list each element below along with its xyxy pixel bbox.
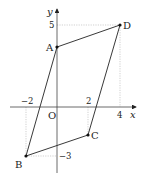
parallelogram-abcd bbox=[26, 25, 120, 156]
coordinate-diagram: A B C D x y O −2 2 4 5 −3 bbox=[0, 0, 142, 183]
label-b: B bbox=[15, 159, 22, 170]
y-axis-label: y bbox=[46, 6, 53, 17]
point-b bbox=[24, 154, 27, 157]
guide-lines bbox=[26, 25, 120, 156]
label-d: D bbox=[123, 20, 131, 31]
x-tick-4: 4 bbox=[117, 110, 122, 120]
point-d bbox=[118, 23, 121, 26]
label-a: A bbox=[45, 42, 54, 53]
point-c bbox=[86, 133, 89, 136]
x-tick-neg2: −2 bbox=[21, 96, 34, 106]
x-tick-2: 2 bbox=[86, 96, 91, 106]
y-tick-neg3: −3 bbox=[59, 151, 72, 161]
x-axis-label: x bbox=[130, 109, 136, 120]
y-tick-5: 5 bbox=[49, 20, 54, 30]
point-a bbox=[55, 45, 58, 48]
label-c: C bbox=[91, 130, 99, 141]
origin-label: O bbox=[48, 110, 56, 121]
